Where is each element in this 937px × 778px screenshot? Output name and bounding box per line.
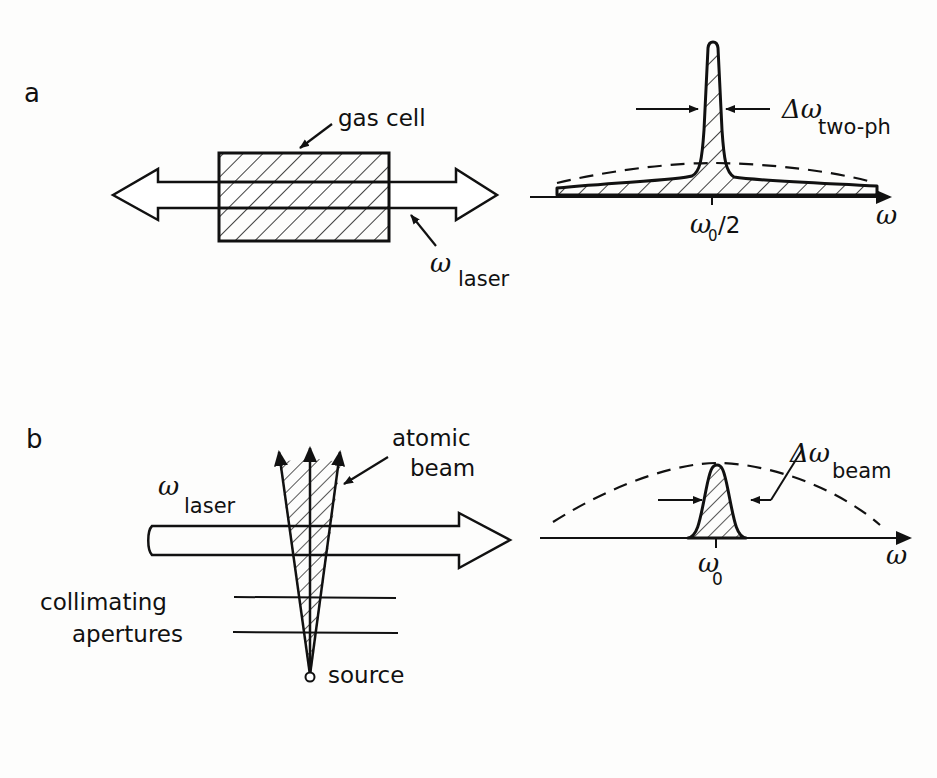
laser-subscript: laser	[458, 267, 510, 291]
omega0-subscript: 0	[708, 227, 718, 245]
aperture-1	[234, 597, 396, 598]
omega-symbol-b: ω	[158, 471, 179, 501]
panel-b-letter: b	[26, 424, 43, 454]
source-label: source	[328, 662, 404, 688]
source-point	[306, 673, 315, 682]
axis-label-omega: ω	[876, 200, 897, 230]
figure-canvas: a gas cell ω laser	[0, 0, 937, 778]
panel-a: a gas cell ω laser	[24, 42, 897, 291]
omega0-subscript-b: 0	[712, 569, 723, 589]
gas-cell-pointer	[300, 124, 332, 148]
axis-label-omega-b: ω	[886, 540, 907, 570]
panel-a-letter: a	[24, 78, 40, 108]
atomic-beam-pointer	[344, 457, 388, 484]
laser-label-a: ω laser	[430, 248, 510, 291]
spectrum-b: Δω beam ω 0 ω	[540, 438, 910, 589]
aperture-2	[233, 632, 398, 633]
laser-pointer	[411, 215, 436, 246]
diagram-svg: a gas cell ω laser	[0, 0, 937, 778]
atomic-beam-label-line1: atomic	[392, 425, 471, 451]
two-ph-subscript: two-ph	[818, 115, 891, 139]
atomic-beam-label-line2: beam	[410, 455, 475, 481]
delta-omega-symbol: Δω	[781, 94, 822, 124]
omega-symbol: ω	[430, 248, 451, 278]
gas-cell	[219, 153, 389, 241]
beam-subscript: beam	[832, 459, 892, 483]
center-label-a: ω 0 /2	[690, 209, 740, 245]
half-suffix: /2	[718, 212, 740, 238]
laser-subscript-b: laser	[184, 494, 236, 518]
atomic-beam	[279, 448, 341, 675]
aperture-label-line2: apertures	[72, 621, 183, 647]
linewidth-label-b: Δω beam	[789, 438, 892, 483]
aperture-label-line1: collimating	[40, 589, 167, 615]
panel-b: b source collimating apertures atomic be…	[26, 424, 910, 688]
gas-cell-label: gas cell	[338, 105, 426, 131]
laser-label-b: ω laser	[158, 471, 236, 518]
linewidth-label-a: Δω two-ph	[781, 94, 891, 139]
center-label-b: ω 0	[698, 548, 723, 589]
delta-omega-symbol-b: Δω	[789, 438, 830, 468]
spectrum-a: Δω two-ph ω 0 /2 ω	[530, 42, 897, 245]
beam-lineshape	[688, 465, 746, 538]
